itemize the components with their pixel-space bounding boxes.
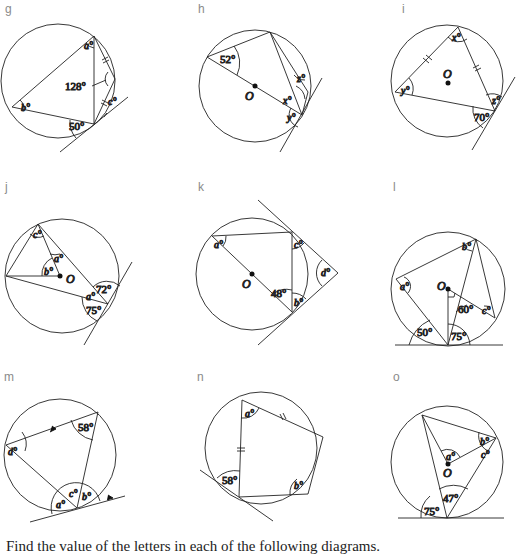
instruction-text: Find the value of the letters in each of… bbox=[6, 538, 380, 555]
angle-label-h-x: x° bbox=[282, 95, 291, 106]
angle-label-i-z: z° bbox=[491, 95, 500, 106]
angle-label-i-y: y° bbox=[400, 85, 409, 96]
tangent-k-2 bbox=[258, 273, 338, 345]
angle-label-n-58: 58° bbox=[222, 474, 237, 486]
angle-label-l-b: b° bbox=[462, 241, 471, 252]
center-label-i: O bbox=[443, 67, 452, 81]
diagram-k: a° c° d° b° 48° O bbox=[196, 200, 338, 345]
diagram-g: a° b° c° 128° 50° bbox=[1, 24, 128, 152]
angle-label-i-x: x° bbox=[451, 32, 460, 43]
diagram-j: c° b° a° a° 72° 75° O bbox=[5, 219, 132, 345]
angle-label-n-a: a° bbox=[245, 408, 254, 419]
angle-label-l-a: a° bbox=[400, 281, 409, 292]
center-dot-j bbox=[58, 274, 63, 279]
diagram-n: a° b° 58° bbox=[200, 392, 323, 521]
angle-label-m-b: b° bbox=[82, 491, 91, 502]
angle-label-j-b: b° bbox=[44, 266, 53, 277]
angle-label-k-48: 48° bbox=[271, 287, 286, 299]
kite-g bbox=[94, 36, 115, 124]
angle-label-m-a: a° bbox=[56, 499, 65, 510]
diagram-h: 52° x° y° z° O bbox=[199, 30, 322, 152]
radius-o-1 bbox=[422, 415, 448, 464]
center-label-j: O bbox=[66, 272, 75, 286]
angle-label-o-a: a° bbox=[446, 451, 455, 462]
diagram-o: a° b° c° 47° 75° O bbox=[391, 406, 504, 518]
angle-label-j-a-bottom: a° bbox=[86, 291, 95, 302]
angle-label-o-47: 47° bbox=[443, 492, 458, 504]
angle-label-h-z: z° bbox=[296, 73, 305, 84]
angle-label-m-d: d° bbox=[8, 446, 17, 457]
angle-label-h-y: y° bbox=[286, 112, 295, 123]
angle-label-o-c: c° bbox=[481, 449, 489, 460]
angle-label-j-75: 75° bbox=[86, 304, 101, 316]
center-dot-k bbox=[250, 272, 255, 277]
angle-label-k-a: a° bbox=[214, 239, 223, 250]
angle-label-k-b: b° bbox=[294, 297, 303, 308]
angle-label-j-a-top: a° bbox=[54, 253, 63, 264]
angle-label-g-c: c° bbox=[108, 96, 116, 107]
angle-label-o-75: 75° bbox=[424, 505, 439, 517]
center-label-h: O bbox=[245, 89, 254, 103]
diagram-m: d° 58° a° c° b° bbox=[4, 399, 125, 522]
angle-label-g-50: 50° bbox=[69, 120, 84, 132]
angle-label-n-b: b° bbox=[294, 480, 303, 491]
circle-m bbox=[4, 399, 116, 511]
center-dot-h bbox=[253, 84, 258, 89]
angle-label-j-c: c° bbox=[33, 229, 41, 240]
center-dot-l bbox=[446, 287, 451, 292]
right-angle-l bbox=[448, 293, 455, 297]
angle-label-l-c: c° bbox=[482, 305, 490, 316]
angle-label-l-75: 75° bbox=[451, 330, 466, 342]
angle-label-h-52: 52° bbox=[220, 53, 235, 65]
angle-label-k-c: c° bbox=[294, 239, 302, 250]
center-dot-i bbox=[446, 81, 451, 86]
angle-label-o-b: b° bbox=[480, 436, 489, 447]
angle-label-g-128: 128° bbox=[65, 80, 86, 92]
geometry-figures: a° b° c° 128° 50° 52° x° y° z° O x° y° bbox=[0, 0, 524, 558]
angle-label-g-a: a° bbox=[84, 40, 93, 51]
angle-label-j-72: 72° bbox=[96, 283, 111, 295]
angle-label-i-70: 70° bbox=[474, 111, 489, 123]
angle-label-g-b: b° bbox=[21, 102, 30, 113]
diagram-l: a° b° c° 60° 50° 75° O bbox=[391, 232, 505, 346]
angle-label-l-60: 60° bbox=[458, 303, 473, 315]
center-label-l: O bbox=[437, 279, 446, 293]
angle-label-m-c: c° bbox=[69, 488, 77, 499]
triangle-o bbox=[422, 415, 496, 518]
center-label-o: O bbox=[443, 466, 452, 480]
diagram-i: x° y° z° 70° O bbox=[391, 25, 515, 150]
angle-label-m-58: 58° bbox=[78, 421, 93, 433]
center-label-k: O bbox=[242, 277, 251, 291]
angle-label-l-50: 50° bbox=[417, 326, 432, 338]
angle-label-k-d: d° bbox=[321, 267, 330, 278]
tangent-k-1 bbox=[258, 200, 338, 273]
